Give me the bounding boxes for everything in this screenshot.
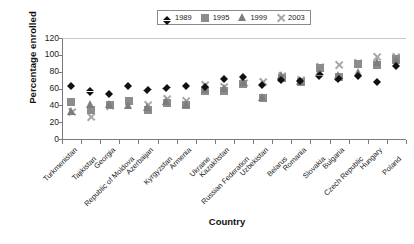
data-point <box>163 97 172 106</box>
legend-label: 1989 <box>175 14 192 22</box>
chart-legend: 1989199519992003 <box>157 10 311 25</box>
data-point <box>258 92 267 101</box>
legend-entry-2003[interactable]: 2003 <box>276 13 305 22</box>
legend-entry-1999[interactable]: 1999 <box>238 13 267 22</box>
x-tick-mark <box>234 140 235 144</box>
x-tick-mark <box>272 140 273 144</box>
x-marker-icon <box>276 13 285 22</box>
x-tick-mark <box>196 140 197 144</box>
diamond-marker-icon <box>163 13 172 22</box>
data-point <box>335 71 344 80</box>
x-tick-mark <box>62 140 63 144</box>
y-tick-label: 100 <box>29 50 59 59</box>
data-point <box>163 81 172 90</box>
data-point <box>335 60 344 69</box>
legend-label: 1995 <box>213 14 230 22</box>
data-point <box>277 72 286 81</box>
data-point <box>105 87 114 96</box>
x-tick-mark <box>119 140 120 144</box>
data-point <box>86 100 95 109</box>
y-tick-mark <box>58 55 62 56</box>
y-tick-label: 40 <box>29 101 59 110</box>
y-tick-mark <box>58 38 62 39</box>
y-tick-label: 120 <box>29 34 59 43</box>
data-point <box>124 101 133 110</box>
x-tick-mark <box>253 140 254 144</box>
legend-label: 1999 <box>250 14 267 22</box>
data-point <box>67 97 76 106</box>
data-point <box>124 78 133 87</box>
chart-container: 1989199519992003 Percentage enrolled Cou… <box>0 0 414 244</box>
legend-label: 2003 <box>288 14 305 22</box>
y-tick-label: 0 <box>29 135 59 144</box>
y-tick-mark <box>58 105 62 106</box>
x-tick-mark <box>158 140 159 144</box>
x-tick-mark <box>368 140 369 144</box>
x-tick-mark <box>100 140 101 144</box>
legend-entry-1989[interactable]: 1989 <box>163 13 192 22</box>
data-point <box>239 70 248 79</box>
x-tick-mark <box>330 140 331 144</box>
legend-entry-1995[interactable]: 1995 <box>201 13 230 22</box>
data-point <box>220 71 229 80</box>
data-point <box>373 58 382 67</box>
data-point <box>316 68 325 77</box>
data-point <box>86 84 95 93</box>
x-tick-mark <box>138 140 139 144</box>
x-tick-mark <box>177 140 178 144</box>
data-point <box>392 59 401 68</box>
data-point <box>201 80 210 89</box>
data-point <box>144 82 153 91</box>
y-tick-mark <box>58 72 62 73</box>
data-point <box>67 78 76 87</box>
data-point <box>354 69 363 78</box>
y-tick-label: 60 <box>29 84 59 93</box>
data-point <box>296 74 305 83</box>
data-point <box>144 103 153 112</box>
square-marker-icon <box>201 13 210 22</box>
x-tick-mark <box>215 140 216 144</box>
y-tick-label: 80 <box>29 67 59 76</box>
x-tick-mark <box>349 140 350 144</box>
x-tick-mark <box>291 140 292 144</box>
x-tick-mark <box>310 140 311 144</box>
data-point <box>373 75 382 84</box>
x-tick-mark <box>406 140 407 144</box>
y-tick-label: 20 <box>29 118 59 127</box>
triangle-marker-icon <box>238 13 247 22</box>
data-point <box>67 107 76 116</box>
data-point <box>258 77 267 86</box>
x-tick-mark <box>81 140 82 144</box>
x-tick-mark <box>387 140 388 144</box>
y-tick-mark <box>58 89 62 90</box>
data-point <box>182 78 191 87</box>
y-tick-mark <box>58 122 62 123</box>
data-point <box>182 99 191 108</box>
